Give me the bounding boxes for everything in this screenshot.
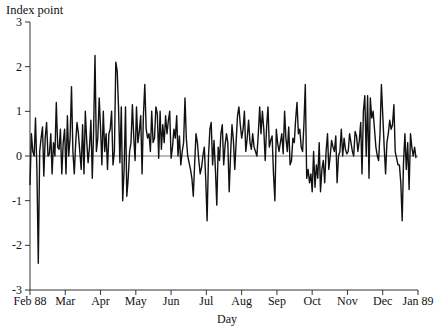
x-tick-label: Aug	[231, 294, 252, 308]
x-axis-title: Day	[217, 312, 237, 326]
y-tick-label: 0	[16, 149, 22, 163]
x-tick-label: Oct	[304, 294, 322, 308]
y-axis: -3-2-10123	[12, 15, 30, 297]
y-tick-label: 3	[16, 15, 22, 29]
x-tick-label: Apr	[91, 294, 110, 308]
x-tick-label: Feb 88	[14, 294, 47, 308]
x-axis: Feb 88MarAprMayJunJulAugSepOctNovDecJan …	[14, 290, 434, 308]
line-chart: Index point -3-2-10123 Feb 88MarAprMayJu…	[0, 0, 437, 330]
y-tick-label: 1	[16, 104, 22, 118]
y-tick-label: -2	[12, 238, 22, 252]
x-tick-label: Jan 89	[403, 294, 434, 308]
x-tick-label: May	[125, 294, 147, 308]
x-tick-label: Mar	[55, 294, 75, 308]
x-tick-label: Jul	[199, 294, 214, 308]
y-axis-title: Index point	[6, 3, 64, 17]
x-tick-label: Nov	[337, 294, 358, 308]
y-tick-label: 2	[16, 60, 22, 74]
y-tick-label: -1	[12, 194, 22, 208]
x-tick-label: Jun	[163, 294, 180, 308]
x-tick-label: Dec	[373, 294, 392, 308]
data-series-line	[30, 56, 416, 264]
chart-canvas: Index point -3-2-10123 Feb 88MarAprMayJu…	[0, 0, 437, 330]
x-tick-label: Sep	[268, 294, 286, 308]
